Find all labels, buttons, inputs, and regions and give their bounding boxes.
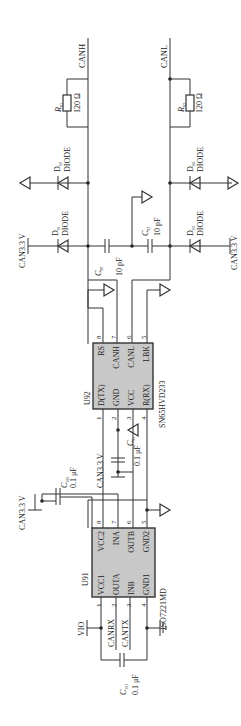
d91-ref: D91 xyxy=(51,226,61,236)
diode-d92 xyxy=(20,176,90,190)
svg-text:2: 2 xyxy=(110,603,118,607)
c91-value: 0.1 μF xyxy=(133,445,142,466)
d94-ref: D94 xyxy=(186,162,196,172)
d92-ref: D92 xyxy=(53,162,63,172)
ground-icon xyxy=(142,191,152,203)
svg-text:5: 5 xyxy=(140,520,148,524)
canl-label: CANL xyxy=(159,45,169,68)
can33-label-c: CAN3.3 V xyxy=(96,453,105,488)
c101-ref: C101 xyxy=(119,684,129,695)
c92-ref: C92 xyxy=(141,227,151,236)
diode-d94 xyxy=(168,176,238,190)
svg-text:RS: RS xyxy=(97,346,106,356)
u92-ref: U92 xyxy=(83,391,92,405)
u91-ref: U91 xyxy=(81,572,90,586)
svg-text:2: 2 xyxy=(110,416,118,420)
diode-d91 xyxy=(28,238,90,254)
svg-text:GND1: GND1 xyxy=(142,574,151,595)
ground-icon xyxy=(160,504,170,516)
u91-vcc2-wire xyxy=(42,494,118,528)
svg-text:7: 7 xyxy=(110,335,118,339)
vio-label: VIO xyxy=(77,622,86,636)
c99-ref: C99 xyxy=(94,267,104,276)
svg-text:8: 8 xyxy=(95,335,103,339)
c91-ref: C91 xyxy=(126,437,136,446)
canl-to-u92 xyxy=(132,263,170,343)
ground-icon xyxy=(20,177,30,189)
r91-ref: R91 xyxy=(54,103,64,113)
c101-value: 0.1 μF xyxy=(131,674,140,695)
can33-label-d: CAN3.3 V xyxy=(18,495,27,530)
r92-value: 120 Ω xyxy=(195,93,204,113)
rs-ground-wire xyxy=(88,290,104,343)
d94-value: DIODE xyxy=(196,147,205,172)
svg-text:GND: GND xyxy=(112,388,121,406)
svg-text:CANH: CANH xyxy=(112,346,121,369)
termination-network xyxy=(63,77,194,127)
svg-text:INB: INB xyxy=(127,581,136,595)
svg-text:1: 1 xyxy=(95,416,103,420)
d93-value: DIODE xyxy=(196,211,205,236)
svg-text:OUTA: OUTA xyxy=(112,573,121,595)
r91-value: 120 Ω xyxy=(73,93,82,113)
c99-value: 10 pF xyxy=(115,257,124,276)
d92-value: DIODE xyxy=(63,147,72,172)
svg-text:R(RX): R(RX) xyxy=(142,384,151,406)
svg-text:GND2: GND2 xyxy=(142,531,151,552)
svg-text:INA: INA xyxy=(112,531,121,545)
lbk-ground-wire xyxy=(147,290,160,343)
can-bus-schematic: CANH CANL R91 120 Ω R92 120 Ω D92 DIODE … xyxy=(0,0,241,726)
r92-ref: R92 xyxy=(177,103,187,113)
cantx-label: CANTX xyxy=(121,619,130,647)
svg-text:CANL: CANL xyxy=(127,346,136,368)
diode-d93 xyxy=(168,238,230,254)
can33-label-b: CAN3.3 V xyxy=(230,235,239,270)
svg-text:OUTB: OUTB xyxy=(127,531,136,553)
c92-value: 10 pF xyxy=(153,217,162,236)
svg-text:3: 3 xyxy=(125,416,133,420)
ground-icon xyxy=(160,284,170,296)
svg-text:3: 3 xyxy=(125,603,133,607)
u92-part: SN65HVD233 xyxy=(158,380,167,428)
svg-text:VCC1: VCC1 xyxy=(97,575,106,595)
svg-text:6: 6 xyxy=(125,520,133,524)
can33-label-a: CAN3.3 V xyxy=(18,233,27,268)
d93-ref: D93 xyxy=(186,226,196,236)
svg-text:7: 7 xyxy=(110,520,118,524)
svg-text:VCC: VCC xyxy=(127,390,136,406)
svg-text:VCC2: VCC2 xyxy=(97,531,106,551)
ground-icon xyxy=(104,284,114,296)
resistor-r91-symbol xyxy=(63,95,71,111)
svg-text:6: 6 xyxy=(125,335,133,339)
resistor-r92-symbol xyxy=(186,95,194,111)
d91-value: DIODE xyxy=(61,211,70,236)
svg-text:LBK: LBK xyxy=(142,346,151,362)
canrx-label: CANRX xyxy=(107,619,116,647)
c100-value: 0.1 μF xyxy=(69,467,78,488)
svg-text:D(TX): D(TX) xyxy=(97,384,106,406)
svg-text:5: 5 xyxy=(140,335,148,339)
svg-text:1: 1 xyxy=(95,603,103,607)
canh-label: CANH xyxy=(77,44,87,68)
svg-text:8: 8 xyxy=(95,520,103,524)
